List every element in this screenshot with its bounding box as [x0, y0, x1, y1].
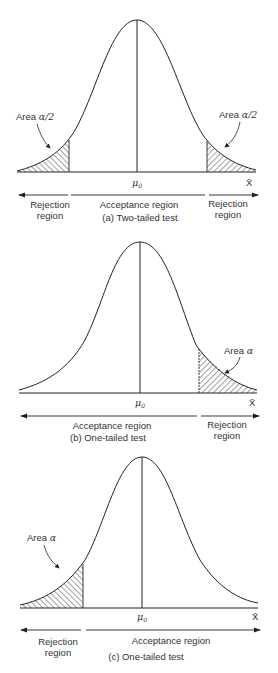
caption-b: (b) One-tailed test [70, 432, 146, 443]
area-pointer-arrow [225, 357, 240, 373]
axis-label-xbar: X̄ [252, 611, 259, 622]
axis-label-xbar: X̄ [249, 397, 256, 408]
normal-curve [20, 457, 258, 605]
caption-c: (c) One-tailed test [108, 651, 184, 662]
area-label: Area α [224, 345, 254, 356]
region-label-acceptance: Acceptance region [73, 420, 152, 431]
left-rejection-area [20, 564, 83, 608]
area-label: Area α [27, 532, 57, 543]
axis-label-xbar: X̄ [246, 177, 253, 188]
region-label-rejection-2: region [214, 430, 240, 441]
region-label-rejection-1: Rejection [38, 636, 78, 647]
right-area-label: Area α/2 [219, 109, 257, 120]
mean-label: μ0 [135, 397, 145, 409]
right-rejection-area [207, 141, 256, 172]
area-pointer-arrow [44, 545, 59, 568]
region-label-center: Acceptance region [100, 199, 179, 210]
mean-label: μ0 [132, 177, 142, 189]
region-label-acceptance: Acceptance region [132, 635, 211, 646]
panel-b-one-tailed-right: Area α μ0 X̄ Acceptance region Rejection… [19, 242, 259, 443]
left-rejection-area [17, 140, 69, 172]
panel-c-one-tailed-left: Area α μ0 X̄ Rejection region Acceptance… [20, 457, 260, 662]
mean-label: μ0 [137, 611, 147, 623]
region-label-rejection-1: Rejection [207, 419, 247, 430]
normal-curve [19, 242, 257, 390]
caption-a: (a) Two-tailed test [102, 212, 178, 223]
hypothesis-test-diagram: Area α/2 Area α/2 μ0 X̄ Rejection region… [0, 0, 278, 673]
left-area-pointer-arrow [37, 124, 50, 148]
region-label-right-1: Rejection [208, 198, 248, 209]
region-label-rejection-2: region [45, 647, 71, 658]
left-area-label: Area α/2 [16, 111, 54, 122]
region-label-left-1: Rejection [30, 199, 70, 210]
region-label-left-2: region [37, 210, 63, 221]
panel-a-two-tailed: Area α/2 Area α/2 μ0 X̄ Rejection region… [16, 20, 258, 223]
right-area-pointer-arrow [225, 122, 240, 147]
region-label-right-2: region [215, 209, 241, 220]
